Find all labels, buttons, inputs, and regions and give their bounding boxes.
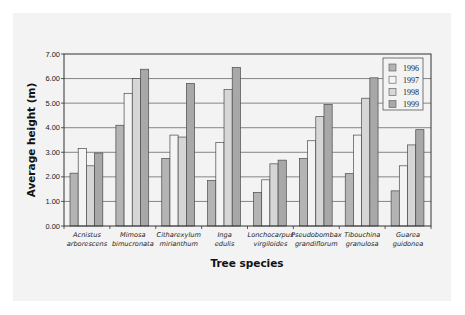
bar-1996 [391, 191, 399, 226]
category-label-line2: edulis [215, 240, 235, 248]
bar-1997 [308, 141, 316, 226]
category-label-line2: mirianthum [159, 240, 197, 248]
y-tick-label: 7.00 [45, 50, 60, 59]
legend-label-1999: 1999 [403, 100, 419, 109]
category-label-line1: Guarea [396, 231, 420, 239]
bar-1997 [399, 166, 407, 226]
category-label-line2: guidonea [393, 240, 424, 248]
bar-1999 [370, 78, 378, 226]
bar-1996 [299, 158, 307, 226]
bar-1999 [186, 83, 194, 226]
bar-1998 [270, 164, 278, 226]
category-label-line2: granulosa [346, 240, 379, 248]
bar-1999 [95, 153, 103, 226]
category-label-line2: grandiflorum [295, 240, 338, 248]
bar-1999 [140, 69, 148, 226]
bar-1997 [353, 135, 361, 226]
y-axis-title: Average height (m) [25, 83, 37, 198]
legend-label-1998: 1998 [403, 88, 419, 97]
bar-1998 [316, 117, 324, 226]
bar-1996 [70, 173, 78, 226]
bar-1997 [78, 148, 86, 226]
category-label-line1: Citharexylum [157, 231, 201, 239]
bar-1997 [170, 135, 178, 226]
category-label-line2: arborescens [67, 240, 108, 248]
bar-1997 [262, 180, 270, 226]
bar-1999 [416, 130, 424, 226]
bar-1998 [178, 137, 186, 226]
legend-swatch-1996 [389, 64, 396, 71]
bar-1998 [132, 79, 140, 226]
bar-1996 [116, 125, 124, 226]
legend-label-1997: 1997 [403, 76, 419, 85]
bar-1996 [162, 158, 170, 226]
category-label-line1: Mimosa [120, 231, 145, 239]
legend-swatch-1999 [389, 101, 396, 108]
y-tick-label: 3.00 [45, 148, 60, 157]
legend: 1996199719981999 [383, 58, 423, 110]
bar-1999 [278, 160, 286, 226]
category-label-line2: virgiloides [254, 240, 288, 248]
category-label-line1: Tibouchina [344, 231, 380, 239]
y-tick-label: 0.00 [45, 222, 60, 231]
bar-1996 [254, 192, 262, 226]
bar-1998 [86, 166, 94, 226]
bar-chart: 0.001.002.003.004.005.006.007.00 Acnistu… [0, 0, 465, 315]
bar-1998 [224, 90, 232, 226]
legend-swatch-1997 [389, 76, 396, 83]
y-tick-labels: 0.001.002.003.004.005.006.007.00 [45, 50, 60, 231]
bar-1999 [324, 104, 332, 226]
y-tick-label: 1.00 [45, 197, 60, 206]
legend-label-1996: 1996 [403, 64, 419, 73]
category-label-line1: Acnistus [72, 231, 101, 239]
legend-swatch-1998 [389, 88, 396, 95]
y-tick-label: 6.00 [45, 74, 60, 83]
bar-1997 [124, 93, 132, 226]
bar-1997 [216, 142, 224, 226]
category-label-line1: Inga [217, 231, 231, 239]
bar-1998 [362, 98, 370, 226]
x-category-labels: AcnistusarborescensMimosabimucronataCith… [67, 231, 424, 248]
bar-1996 [208, 181, 216, 226]
category-label-line1: Pseudobombax [291, 231, 342, 239]
bar-1999 [232, 68, 240, 226]
bar-1996 [345, 174, 353, 226]
y-tick-label: 5.00 [45, 99, 60, 108]
category-label-line1: Lonchocarpus [247, 231, 293, 239]
x-axis-title: Tree species [210, 257, 283, 269]
bar-series [70, 68, 424, 226]
y-tick-label: 4.00 [45, 123, 60, 132]
bar-1998 [408, 145, 416, 226]
y-tick-label: 2.00 [45, 172, 60, 181]
category-label-line2: bimucronata [112, 240, 154, 248]
